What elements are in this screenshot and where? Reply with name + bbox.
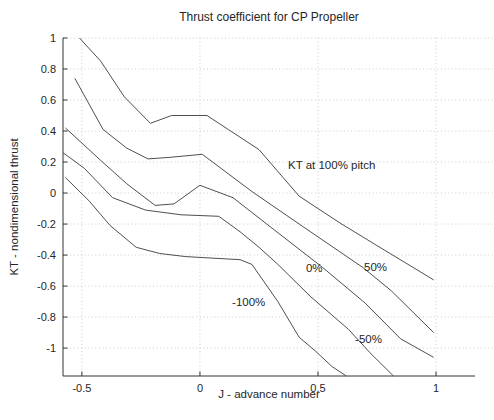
x-tick-label: 0 xyxy=(197,382,203,394)
y-tick-label: 0.2 xyxy=(41,156,56,168)
data-curve KT at 50% pitch xyxy=(75,78,434,332)
y-tick-label: 0.8 xyxy=(41,63,56,75)
y-tick-label: -0.8 xyxy=(37,311,56,323)
curve-annotation: 0% xyxy=(306,262,323,274)
curve-annotation: 50% xyxy=(364,261,387,273)
y-tick-label: 0.4 xyxy=(41,125,56,137)
y-tick-label: 1 xyxy=(50,32,56,44)
y-tick-label: -1 xyxy=(46,342,56,354)
x-tick-label: -0.5 xyxy=(72,382,91,394)
x-tick-label: 1 xyxy=(433,382,439,394)
x-tick-label: 0.5 xyxy=(310,382,325,394)
y-tick-label: 0 xyxy=(50,187,56,199)
curve-annotation: -100% xyxy=(232,296,265,308)
y-tick-label: -0.6 xyxy=(37,280,56,292)
curve-annotation: KT at 100% pitch xyxy=(288,159,375,171)
data-curve KT at -100% pitch xyxy=(65,178,346,377)
data-curve KT at -50% pitch xyxy=(63,153,394,376)
y-tick-label: -0.2 xyxy=(37,218,56,230)
curve-annotation: -50% xyxy=(355,333,382,345)
y-tick-label: -0.4 xyxy=(37,249,56,261)
y-tick-label: 0.6 xyxy=(41,94,56,106)
data-curve KT at 100% pitch xyxy=(80,38,434,280)
plot-svg: 10.80.60.40.20-0.2-0.4-0.6-0.8-1-0.500.5… xyxy=(0,0,494,420)
figure-canvas: Thrust coefficient for CP Propeller KT -… xyxy=(0,0,494,420)
